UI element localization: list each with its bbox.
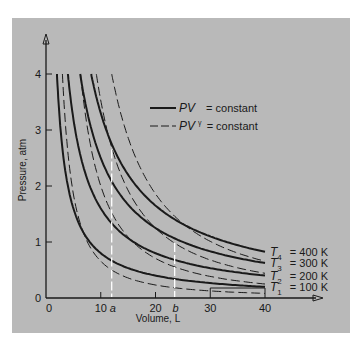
y-tick-label: 3	[35, 124, 41, 136]
marker-label-b: b	[173, 302, 179, 314]
x-tick-label: 40	[259, 302, 271, 314]
x-axis-label: Volume, L	[136, 313, 181, 324]
y-axis-label: Pressure, atm	[17, 139, 28, 201]
legend: PV = constant PV γ = constant	[150, 101, 258, 133]
x-tick-label: 10	[95, 302, 107, 314]
temperature-labels: T1= 100 KT2= 200 KT3= 300 KT4= 400 K	[270, 245, 329, 297]
x-tick-label: 30	[204, 302, 216, 314]
y-tick-label: 2	[35, 180, 41, 192]
legend-item-isotherm: PV = constant	[179, 101, 257, 115]
legend-item-adiabat: PV γ = constant	[179, 115, 258, 133]
y-ticks: 01234	[35, 68, 52, 304]
y-tick-label: 0	[35, 292, 41, 304]
pv-diagram: 01234 010203040 Pressure, atm Volume, L …	[0, 0, 361, 356]
x-tick-label: 0	[46, 302, 52, 314]
marker-label-a: a	[110, 302, 116, 314]
y-tick-label: 1	[35, 236, 41, 248]
x-ticks: 010203040	[46, 292, 271, 314]
y-tick-label: 4	[35, 68, 41, 80]
